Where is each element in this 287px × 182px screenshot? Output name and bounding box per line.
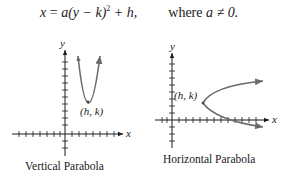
vertex-point: [87, 101, 90, 104]
x-axis-label: x: [126, 127, 131, 139]
vertical-parabola-graph: [12, 50, 123, 156]
vertex-label: (h, k): [174, 89, 197, 101]
lower-branch-curve: [203, 103, 263, 127]
vertex-point: [202, 102, 205, 105]
vertical-parabola-caption: Vertical Parabola: [25, 160, 104, 172]
x-axis-label: x: [272, 113, 277, 125]
horizontal-parabola-graph: [155, 53, 269, 148]
y-axis-label: y: [170, 40, 175, 52]
horizontal-parabola-caption: Horizontal Parabola: [163, 153, 255, 165]
vertical-parabola-curve: [78, 56, 100, 103]
vertex-label: (h, k): [80, 105, 103, 117]
upper-branch-curve: [203, 81, 263, 103]
y-axis-label: y: [60, 37, 65, 49]
